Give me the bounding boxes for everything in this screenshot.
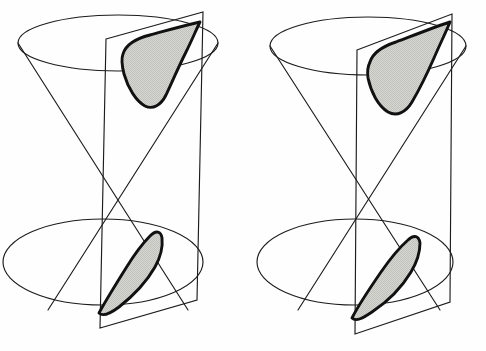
double-cone-diagram [0,0,486,351]
diagram-canvas: Hyperbolic sections of a double cone Two… [0,0,486,351]
